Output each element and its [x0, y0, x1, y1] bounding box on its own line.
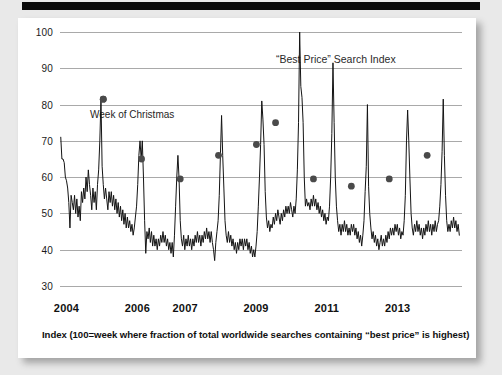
figure-root: “Best Price” Search Index Week of Christ… [0, 0, 502, 375]
chart-caption: Index (100=week where fraction of total … [42, 329, 462, 340]
christmas-marker-6 [310, 176, 317, 183]
x-tick-label-2011: 2011 [315, 302, 340, 314]
gridline-30 [60, 286, 462, 287]
y-tick-label-30: 30 [41, 281, 53, 292]
y-tick-label-100: 100 [36, 27, 53, 38]
series-path-0 [61, 32, 460, 261]
y-tick-label-90: 90 [41, 63, 53, 74]
christmas-marker-2 [177, 176, 184, 183]
y-tick-label-80: 80 [41, 99, 53, 110]
x-tick-label-2009: 2009 [243, 302, 268, 314]
x-tick-label-2006: 2006 [125, 302, 150, 314]
x-tick-label-2007: 2007 [173, 302, 198, 314]
scan-top-bar [22, 2, 480, 10]
christmas-marker-3 [215, 152, 222, 159]
x-tick-label-2004: 2004 [54, 302, 79, 314]
christmas-marker-4 [253, 141, 260, 148]
chart-card: “Best Price” Search Index Week of Christ… [18, 18, 476, 358]
christmas-marker-7 [348, 183, 355, 190]
christmas-marker-5 [272, 119, 279, 126]
x-tick-label-2013: 2013 [385, 302, 410, 314]
christmas-marker-callout-dot [100, 96, 107, 103]
y-tick-label-70: 70 [41, 135, 53, 146]
christmas-marker-8 [386, 176, 393, 183]
plot-area: 30405060708090100 [60, 32, 462, 286]
y-tick-label-40: 40 [41, 244, 53, 255]
y-tick-label-60: 60 [41, 172, 53, 183]
christmas-marker-9 [424, 152, 431, 159]
y-tick-label-50: 50 [41, 208, 53, 219]
christmas-marker-1 [138, 156, 145, 163]
series-line-chart [60, 32, 462, 286]
